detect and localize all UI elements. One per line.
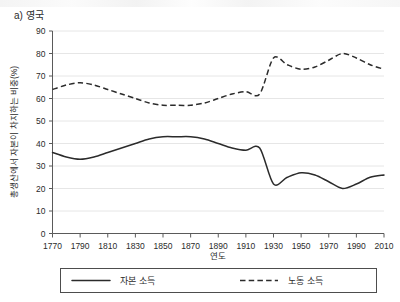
chart-legend: 자본 소득 노동 소득 bbox=[61, 269, 377, 293]
y-tick-label: 90 bbox=[36, 26, 46, 36]
legend-label-labor: 노동 소득 bbox=[288, 276, 323, 286]
gridlines bbox=[53, 31, 385, 211]
x-tick-label: 2010 bbox=[375, 241, 394, 251]
x-tick-label: 1950 bbox=[292, 241, 311, 251]
legend-label-capital: 자본 소득 bbox=[120, 276, 155, 286]
y-tick-label: 10 bbox=[36, 206, 46, 216]
y-axis-ticks: 0102030405060708090 bbox=[36, 26, 52, 239]
x-tick-label: 1970 bbox=[319, 241, 338, 251]
x-tick-label: 1830 bbox=[126, 241, 145, 251]
line-chart: 0102030405060708090 17701790181018301850… bbox=[0, 0, 400, 302]
series-line-capital bbox=[53, 137, 385, 189]
x-tick-label: 1910 bbox=[236, 241, 255, 251]
y-tick-label: 60 bbox=[36, 94, 46, 104]
x-tick-label: 1870 bbox=[181, 241, 200, 251]
x-tick-label: 1890 bbox=[209, 241, 228, 251]
x-axis-title: 연도 bbox=[210, 251, 226, 261]
x-tick-label: 1850 bbox=[154, 241, 173, 251]
y-axis-title: 총생산에서 자본이 차지하는 비중(%) bbox=[9, 66, 19, 198]
y-tick-label: 70 bbox=[36, 71, 46, 81]
x-tick-label: 1810 bbox=[98, 241, 117, 251]
y-tick-label: 40 bbox=[36, 139, 46, 149]
x-tick-label: 1990 bbox=[347, 241, 366, 251]
y-tick-label: 80 bbox=[36, 49, 46, 59]
series-line-labor bbox=[53, 53, 385, 105]
x-tick-label: 1770 bbox=[43, 241, 62, 251]
x-tick-label: 1930 bbox=[264, 241, 283, 251]
y-tick-label: 30 bbox=[36, 161, 46, 171]
x-axis-ticks: 1770179018101830185018701890191019301950… bbox=[43, 234, 394, 251]
y-tick-label: 0 bbox=[41, 229, 46, 239]
chart-canvas: 0102030405060708090 17701790181018301850… bbox=[0, 0, 400, 302]
axes bbox=[53, 31, 385, 234]
y-tick-label: 20 bbox=[36, 184, 46, 194]
x-tick-label: 1790 bbox=[71, 241, 90, 251]
y-tick-label: 50 bbox=[36, 116, 46, 126]
